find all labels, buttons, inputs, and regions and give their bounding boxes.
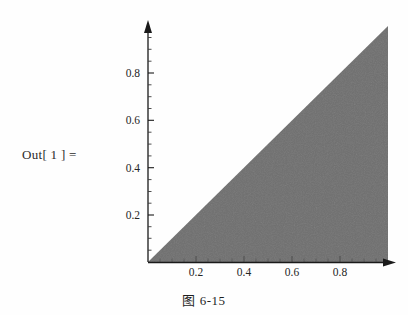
x-tick-label-0.6: 0.6 [285, 266, 299, 278]
shaded-region-below-line [148, 26, 388, 262]
y-axis-arrow-icon [144, 20, 152, 33]
x-tick-label-0.2: 0.2 [189, 266, 203, 278]
figure-page: Out[ 1 ] = [0, 0, 408, 315]
y-tick-label-0.8: 0.8 [118, 67, 140, 79]
plot-area: 0.2 0.4 0.6 0.8 0.2 0.4 0.6 0.8 [0, 0, 408, 315]
y-tick-label-0.6: 0.6 [118, 114, 140, 126]
x-tick-label-0.8: 0.8 [333, 266, 347, 278]
figure-caption: 图 6-15 [0, 290, 408, 309]
y-tick-label-0.2: 0.2 [118, 209, 140, 221]
x-tick-label-0.4: 0.4 [237, 266, 251, 278]
y-tick-label-0.4: 0.4 [118, 162, 140, 174]
x-axis-arrow-icon [383, 259, 396, 267]
